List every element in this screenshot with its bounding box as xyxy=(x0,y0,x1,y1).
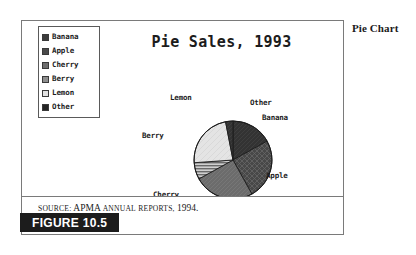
source-word-apma: APMA xyxy=(73,203,100,213)
source-word-annual: ANNUAL xyxy=(103,204,136,213)
pie-callout-lemon: Lemon xyxy=(170,93,192,102)
pie-svg xyxy=(22,21,343,196)
pie-callout-berry: Berry xyxy=(142,131,164,140)
source-word-year: 1994. xyxy=(177,203,198,213)
source-line: SOURCE: APMA ANNUAL REPORTS, 1994. xyxy=(38,203,198,213)
pie-callout-banana: Banana xyxy=(262,113,288,122)
source-divider xyxy=(22,196,343,197)
pie-chart: Lemon Other Banana Berry Apple Cherry xyxy=(22,21,343,196)
pie-callout-other: Other xyxy=(250,98,272,107)
figure-number-tag: FIGURE 10.5 xyxy=(20,213,119,232)
pie-callout-apple: Apple xyxy=(266,171,288,180)
chart-area: Banana Apple Cherry Berry Lemon Other xyxy=(22,21,343,196)
figure-frame: Banana Apple Cherry Berry Lemon Other xyxy=(21,20,344,235)
source-word-source: SOURCE: xyxy=(38,204,71,213)
source-word-reports: REPORTS, xyxy=(138,204,174,213)
margin-note-pie-chart: Pie Chart xyxy=(352,22,398,34)
